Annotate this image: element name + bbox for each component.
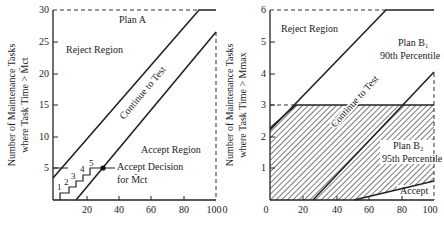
step-label: 2 <box>64 177 69 187</box>
plan-b2-percentile: 95th Percentile <box>382 153 443 164</box>
y-tick: 3 <box>261 99 266 110</box>
y-axis-label-line2: where Task Time > M̄ct <box>19 57 30 153</box>
step-label: 1 <box>57 182 62 192</box>
plan-a-chart: 5 10 15 20 25 30 20 40 60 80 100 Number … <box>6 4 222 215</box>
y-tick: 10 <box>39 131 49 142</box>
plan-b1-label: Plan B₁ <box>398 37 428 48</box>
x-tick: 100 <box>207 204 222 215</box>
accept-label: Accept <box>400 185 429 196</box>
step-label: 4 <box>80 164 85 174</box>
accept-region-label: Accept Region <box>141 144 201 155</box>
x-tick: 40 <box>114 204 124 215</box>
accept-decision-label-line2: for M̄ct <box>117 174 147 185</box>
x-tick: 60 <box>364 204 374 215</box>
reject-region-label: Reject Region <box>281 23 338 34</box>
plan-b2-label: Plan B₂ <box>393 140 423 151</box>
x-tick: 80 <box>397 204 407 215</box>
plan-b1-percentile: 90th Percentile <box>380 50 441 61</box>
step-label: 5 <box>89 158 94 168</box>
x-tick: 20 <box>82 204 92 215</box>
y-axis-label-line2: where Task Time > Mmax <box>237 52 248 157</box>
y-tick: 1 <box>261 162 266 173</box>
y-tick: 2 <box>261 131 266 142</box>
y-tick: 25 <box>39 36 49 47</box>
y-tick: 20 <box>39 68 49 79</box>
y-tick: 15 <box>39 99 49 110</box>
y-axis-label: Number of Maintenance Tasks <box>6 44 17 167</box>
y-tick: 4 <box>261 68 266 79</box>
accept-decision-label: Accept Decision <box>117 161 183 172</box>
x-tick: 60 <box>146 204 156 215</box>
x-tick: 20 <box>298 204 308 215</box>
x-tick: 40 <box>332 204 342 215</box>
y-tick: 5 <box>261 36 266 47</box>
accept-decision-point <box>100 165 105 170</box>
y-axis-label: Number of Maintenance Tasks <box>224 44 235 167</box>
x-tick: 80 <box>179 204 189 215</box>
x-tick: 100 <box>423 204 438 215</box>
step-label: 3 <box>71 171 76 181</box>
plan-a-title: Plan A <box>119 14 147 25</box>
continue-to-test-label: Continue to Test <box>117 64 168 122</box>
charts-canvas: 5 10 15 20 25 30 20 40 60 80 100 Number … <box>0 0 444 225</box>
left-chart-zero-tick: 0 <box>223 204 228 215</box>
plan-b-chart: 1 2 3 4 5 6 0 20 40 60 80 100 0 Number o… <box>223 4 443 215</box>
y-tick: 30 <box>39 4 49 15</box>
reject-region-label: Reject Region <box>66 44 123 55</box>
x-tick: 0 <box>264 204 269 215</box>
y-tick: 5 <box>44 162 49 173</box>
y-tick: 6 <box>261 4 266 15</box>
